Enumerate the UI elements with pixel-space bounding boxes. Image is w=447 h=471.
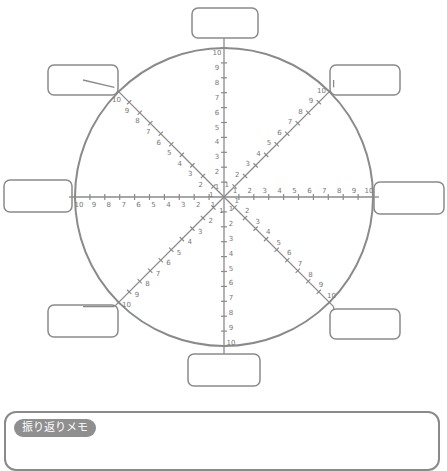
scale-label: 1 (229, 205, 233, 213)
scale-label: 7 (322, 187, 326, 195)
scale-label: 6 (166, 259, 171, 267)
scale-label: 5 (292, 187, 296, 195)
scale-label: 4 (215, 138, 220, 146)
scale-label: 10 (365, 187, 374, 195)
scale-label: 10 (213, 49, 222, 57)
scale-label: 4 (166, 201, 171, 209)
scale-label: 5 (267, 139, 271, 147)
scale-label: 3 (262, 187, 266, 195)
spoke-top-right (224, 87, 334, 197)
spoke-bottom-right (224, 197, 334, 307)
scale-label: 4 (266, 228, 271, 236)
scale-label: 5 (151, 201, 155, 209)
scale-label: 10 (317, 87, 326, 95)
scale-label: 9 (125, 107, 129, 115)
scale-label: 1 (209, 191, 213, 199)
scale-label: 7 (156, 270, 160, 278)
scale-label: 4 (187, 238, 192, 246)
scale-label: 3 (181, 201, 185, 209)
scale-label: 4 (229, 250, 234, 258)
label-box-bottom-right (330, 309, 400, 339)
scale-label: 9 (309, 97, 313, 105)
scale-label: 10 (227, 339, 236, 347)
scale-label: 2 (229, 220, 233, 228)
scale-label: 2 (215, 168, 219, 176)
label-box-left (4, 180, 72, 212)
label-box-bottom-left (48, 305, 118, 337)
scale-label: 7 (215, 94, 219, 102)
scale-label: 10 (122, 301, 131, 309)
scale-label: 10 (327, 292, 336, 300)
spoke-bottom-left (114, 197, 224, 307)
scale-label: 9 (92, 201, 96, 209)
memo-label: 振り返りメモ (14, 419, 96, 437)
scale-label: 5 (215, 124, 219, 132)
scale-label: 7 (146, 128, 150, 136)
scale-label: 9 (229, 324, 233, 332)
scale-label: 2 (196, 201, 200, 209)
reflection-memo-box[interactable]: 振り返りメモ (4, 411, 440, 471)
scale-label: 8 (215, 79, 219, 87)
scale-label: 9 (319, 281, 323, 289)
scale-label: 4 (178, 160, 183, 168)
label-box-right (374, 182, 444, 214)
label-box-bottom (188, 354, 260, 386)
scale-label: 8 (308, 271, 312, 279)
scale-label: 9 (215, 64, 219, 72)
scale-label: 9 (135, 291, 139, 299)
scale-label: 7 (229, 294, 233, 302)
scale-label: 4 (256, 150, 261, 158)
spoke-top-left (114, 87, 224, 197)
label-box-top-right (330, 65, 400, 95)
scale-label: 3 (229, 235, 233, 243)
scale-label: 1 (211, 201, 215, 209)
scale-label: 5 (167, 149, 171, 157)
scale-label: 3 (255, 218, 259, 226)
scale-label: 8 (298, 108, 302, 116)
label-box-top (192, 8, 258, 38)
scale-label: 2 (235, 171, 239, 179)
scale-label: 8 (337, 187, 341, 195)
scale-label: 1 (233, 187, 237, 195)
scale-label: 5 (277, 239, 281, 247)
scale-label: 5 (229, 265, 233, 273)
scale-label: 10 (112, 96, 121, 104)
scale-label: 6 (136, 201, 141, 209)
scale-label: 4 (277, 187, 282, 195)
scale-label: 3 (215, 153, 219, 161)
scale-label: 8 (135, 117, 139, 125)
scale-label: 2 (245, 207, 249, 215)
scale-label: 6 (215, 109, 220, 117)
scale-label: 3 (198, 228, 202, 236)
scale-label: 3 (246, 160, 250, 168)
scale-label: 3 (188, 170, 192, 178)
scale-label: 2 (248, 187, 252, 195)
scale-label: 5 (177, 249, 181, 257)
scale-label: 8 (229, 309, 233, 317)
scale-label: 1 (234, 197, 238, 205)
scale-label: 7 (121, 201, 125, 209)
scale-label: 8 (107, 201, 111, 209)
scale-label: 9 (352, 187, 356, 195)
scale-label: 6 (156, 139, 161, 147)
scale-label: 1 (225, 181, 229, 189)
scale-label: 1 (219, 207, 223, 215)
scale-label: 10 (75, 201, 84, 209)
scale-label: 7 (298, 260, 302, 268)
scale-label: 6 (229, 279, 234, 287)
scale-label: 2 (199, 181, 203, 189)
scale-label: 2 (208, 217, 212, 225)
scale-label: 6 (287, 249, 292, 257)
scale-label: 6 (307, 187, 312, 195)
scale-label: 6 (277, 129, 282, 137)
scale-label: 7 (288, 118, 292, 126)
scale-label: 8 (145, 280, 149, 288)
